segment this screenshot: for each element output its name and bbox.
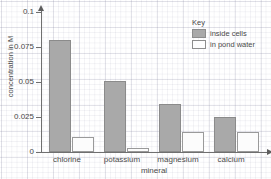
y-tick-mark	[36, 152, 41, 153]
legend-label-inside-cells: inside cells	[210, 29, 247, 38]
y-axis-title: concentration in M	[6, 25, 15, 109]
bar-potassium-inside-cells	[104, 81, 126, 152]
legend-item-inside-cells: inside cells	[192, 29, 255, 38]
bar-calcium-inside-cells	[214, 117, 236, 152]
bar-chlorine-inside-cells	[49, 40, 71, 152]
legend-title: Key	[192, 18, 255, 27]
legend: Key inside cells in pond water	[192, 18, 255, 51]
x-axis-line	[41, 152, 269, 153]
y-tick-label: 0.1	[0, 7, 34, 16]
x-axis-title: mineral	[41, 166, 267, 175]
y-tick-label: 0.025	[0, 112, 34, 121]
legend-swatch-inside-cells	[192, 29, 206, 38]
bar-chlorine-in-pond-water	[72, 137, 94, 152]
bar-calcium-in-pond-water	[237, 132, 259, 152]
legend-label-in-pond-water: in pond water	[210, 40, 255, 49]
bar-magnesium-in-pond-water	[182, 132, 204, 152]
x-category-label-calcium: calcium	[200, 155, 262, 164]
x-axis-arrow-icon	[267, 149, 271, 155]
bar-chart: 0.1 0.075 0.05 0.025 0 concentration in …	[0, 0, 271, 179]
y-tick-label: 0	[0, 147, 34, 156]
legend-item-in-pond-water: in pond water	[192, 40, 255, 49]
y-axis-arrow-icon	[38, 5, 44, 11]
legend-swatch-in-pond-water	[192, 40, 206, 49]
bar-magnesium-inside-cells	[159, 104, 181, 152]
bar-potassium-in-pond-water	[127, 148, 149, 152]
